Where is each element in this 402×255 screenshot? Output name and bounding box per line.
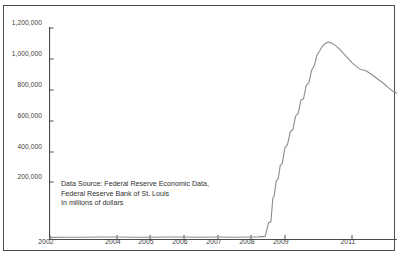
- y-tick-label: 1,200,000: [12, 19, 42, 26]
- annotation-line-2: Federal Reserve Bank of St. Louis: [61, 190, 209, 200]
- y-tick-label: 400,000: [17, 143, 42, 150]
- x-tick-label: 2011: [334, 238, 362, 245]
- chart-screenshot: Data Source: Federal Reserve Economic Da…: [0, 0, 402, 255]
- cut-off-title: [0, 0, 402, 4]
- x-tick-label: 2009: [267, 238, 295, 245]
- data-source-annotation: Data Source: Federal Reserve Economic Da…: [61, 180, 209, 209]
- figure-frame: Data Source: Federal Reserve Economic Da…: [3, 5, 395, 251]
- x-tick-label: 2006: [166, 238, 194, 245]
- y-tick-label: 600,000: [17, 112, 42, 119]
- annotation-line-3: In millions of dollars: [61, 199, 209, 209]
- x-tick-label: 2002: [32, 238, 60, 245]
- annotation-line-1: Data Source: Federal Reserve Economic Da…: [61, 180, 209, 190]
- y-tick-label: 1,000,000: [12, 50, 42, 57]
- y-tick-label: 800,000: [17, 81, 42, 88]
- y-tick-label: 200,000: [17, 173, 42, 180]
- x-tick-label: 2004: [99, 238, 127, 245]
- x-tick-label: 2007: [200, 238, 228, 245]
- x-tick-label: 2008: [233, 238, 261, 245]
- y-axis-tick-labels: 1,200,000 1,000,000 800,000 600,000 400,…: [0, 0, 42, 255]
- x-tick-label: 2005: [132, 238, 160, 245]
